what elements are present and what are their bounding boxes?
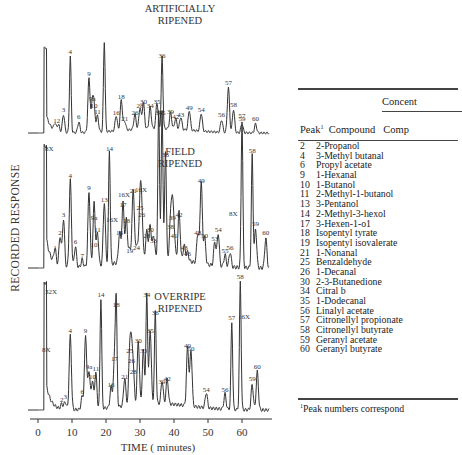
peak-label: 33 (150, 237, 158, 245)
chromatogram-figure: 1234699a10111618212628303435363942434954… (0, 0, 290, 455)
peak-label: 46 (184, 250, 192, 258)
peak-label: 25 (126, 347, 134, 355)
peak-label: 11 (92, 365, 99, 373)
peak-label: 60 (252, 115, 260, 123)
attenuation-label: 8X (42, 346, 51, 354)
peak-label: 9 (84, 327, 88, 335)
x-tick-label: 0 (35, 426, 41, 438)
peak-label: 4 (69, 48, 73, 56)
peak-label: 54 (198, 106, 206, 114)
peak-label: 35 (154, 98, 162, 106)
peak-label: 33 (140, 347, 148, 355)
peak-label: 54 (215, 226, 223, 234)
footnote-text: Peak numbers correspond (303, 403, 404, 414)
table-bottom-rule (298, 398, 458, 400)
x-tick-label: 30 (135, 426, 147, 438)
peak-label: 53 (211, 235, 219, 243)
table-group-header: Concent (382, 96, 417, 107)
peak-label: 38 (167, 223, 175, 231)
peak-label: 14 (106, 145, 114, 153)
peak-label: 16 (108, 381, 116, 389)
chromatogram-plot: 1234699a10111618212628303435363942434954… (0, 0, 290, 455)
peak-label: 35 (147, 327, 155, 335)
peak-label: 58 (237, 273, 245, 281)
peak-label: 43 (177, 111, 185, 119)
peak-label: 35 (159, 109, 167, 117)
peak-label: 18 (118, 93, 126, 101)
peak-label: 9 (87, 70, 91, 78)
peak-label: 13 (101, 196, 109, 204)
peak-label: 21 (121, 373, 129, 381)
chromatogram-panel-3: 234699a101114161718212526283033343536394… (28, 273, 269, 412)
peak-label: 16 (116, 229, 124, 237)
x-tick-label: 10 (67, 426, 79, 438)
peak-label: 59 (249, 375, 257, 383)
attenuation-label: 32X (45, 288, 57, 296)
table-top-rule (298, 88, 458, 90)
peak-label: 36 (159, 52, 167, 60)
peak-label: 26 (128, 357, 136, 365)
peak-label: 58 (230, 101, 238, 109)
peak-label: 11 (94, 108, 101, 116)
peak-label: 42 (164, 375, 172, 383)
chromatogram-trace (28, 43, 269, 135)
peak-label: 4 (69, 172, 73, 180)
peak-label: 49 (186, 104, 194, 112)
peak-label: 1 (53, 244, 57, 252)
peak-label: 56 (218, 111, 226, 119)
peak-label: 2 (57, 117, 61, 125)
chromatogram-panel-1: 1234699a10111618212628303435363942434954… (28, 3, 269, 134)
peak-label: 3 (62, 106, 66, 114)
peak-label: 58 (249, 147, 257, 155)
attenuation-label: 16X (106, 216, 118, 224)
attenuation-label: 16X (118, 191, 130, 199)
peak-label: 57 (225, 79, 233, 87)
x-axis: 0102030405060TIME ( minutes) (30, 419, 272, 454)
table-footnote: 1Peak numbers correspond (300, 403, 404, 414)
peak-label: 14 (97, 291, 105, 299)
table-header-row: Peak1 Compound Comp (300, 124, 409, 135)
panel-title: RIPENED (158, 15, 203, 26)
peak-label: 24 (133, 244, 141, 252)
peak-label: 50 (201, 232, 209, 240)
peak-label: 57 (239, 112, 247, 120)
peak-label: 3 (63, 393, 67, 401)
peak-label: 9 (87, 184, 91, 192)
peak-label: 30 (135, 337, 143, 345)
peak-label: 11 (94, 226, 101, 234)
peak-label: 56 (222, 386, 230, 394)
peak-number: 60 (300, 344, 316, 354)
x-tick-label: 50 (203, 426, 215, 438)
peak-label: 54 (203, 386, 211, 394)
peak-label: 17 (111, 355, 119, 363)
peak-label: 59 (252, 220, 260, 228)
peak-label: 60 (262, 229, 270, 237)
peak-label: 57 (228, 314, 236, 322)
peak-label: 41 (171, 232, 179, 240)
col-compound: Compound (329, 124, 376, 135)
peak-label: 9a (91, 214, 99, 222)
panel-title: FIELD (165, 146, 195, 157)
peak-label: 16 (113, 109, 121, 117)
x-tick-label: 40 (169, 426, 181, 438)
attenuation-label: 16X (238, 313, 250, 321)
peak-label: 6 (74, 238, 78, 246)
panel-title: RIPENED (158, 303, 203, 314)
table-row: 60Geranyl butyrate (300, 344, 403, 354)
attenuation-label: 8X (229, 210, 238, 218)
chromatogram-trace (28, 281, 269, 411)
peak-label: 4 (69, 327, 73, 335)
table-body: 22-Propanol43-Methyl butanal6Propyl acet… (300, 141, 403, 354)
peak-label: 42 (176, 211, 184, 219)
peak-label: 49 (198, 177, 206, 185)
panel-title: RIPENED (158, 158, 203, 169)
peak-label: 60 (254, 363, 262, 371)
chromatogram-panel-2: 12346799a1011131416171819212425262830333… (28, 109, 270, 270)
peak-label: 3 (62, 211, 66, 219)
peak-label: 6 (77, 113, 81, 121)
peak-label: 6 (80, 388, 84, 396)
peak-label: 28 (130, 368, 138, 376)
col-peak: Peak (300, 124, 320, 135)
attenuation-label: 8X (45, 145, 54, 153)
col-peak-footnote-mark: 1 (320, 124, 323, 130)
